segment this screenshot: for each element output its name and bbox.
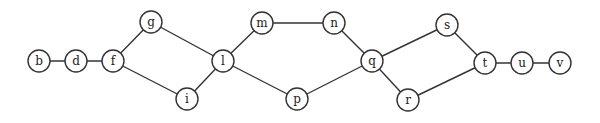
edge-f-i xyxy=(113,61,187,99)
node-label: n xyxy=(330,16,338,30)
edge-q-s xyxy=(372,25,447,61)
graph-diagram: bdfgilmnpqsrtuv xyxy=(0,0,600,123)
node-b: b xyxy=(28,50,50,72)
edge-g-l xyxy=(151,22,223,61)
node-label: d xyxy=(72,54,80,68)
node-v: v xyxy=(549,52,571,74)
node-label: s xyxy=(444,18,450,32)
node-label: r xyxy=(405,93,411,107)
edge-p-q xyxy=(297,61,372,99)
node-l: l xyxy=(212,50,234,72)
node-u: u xyxy=(511,52,533,74)
edge-l-p xyxy=(223,61,297,99)
node-label: l xyxy=(221,54,225,68)
node-t: t xyxy=(474,52,496,74)
node-label: u xyxy=(518,56,526,70)
node-label: v xyxy=(556,56,564,70)
graph-svg: bdfgilmnpqsrtuv xyxy=(0,0,600,123)
node-f: f xyxy=(102,50,124,72)
node-q: q xyxy=(361,50,383,72)
node-label: p xyxy=(293,92,301,106)
nodes-layer: bdfgilmnpqsrtuv xyxy=(28,11,571,111)
node-m: m xyxy=(251,12,273,34)
node-p: p xyxy=(286,88,308,110)
node-label: t xyxy=(483,56,488,70)
edge-r-t xyxy=(408,63,485,100)
node-i: i xyxy=(176,88,198,110)
node-s: s xyxy=(436,14,458,36)
node-label: m xyxy=(256,16,268,30)
node-label: g xyxy=(147,15,155,29)
node-d: d xyxy=(65,50,87,72)
node-r: r xyxy=(397,89,419,111)
node-label: q xyxy=(368,54,376,68)
node-n: n xyxy=(323,12,345,34)
node-g: g xyxy=(140,11,162,33)
node-label: b xyxy=(35,54,43,68)
node-label: i xyxy=(185,92,189,106)
